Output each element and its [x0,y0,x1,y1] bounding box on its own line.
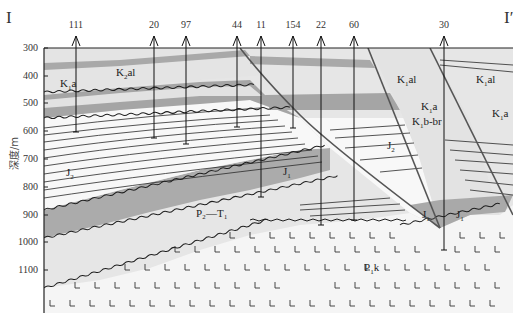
tick-1000: 1000 [4,237,38,247]
well-label-22: 22 [306,20,336,30]
tick-300: 300 [4,43,38,53]
well-label-11: 11 [246,20,276,30]
label-k1a-mid: K1a [421,101,437,115]
label-k2al: K2al [116,67,135,81]
tick-500: 500 [4,98,38,108]
label-j2-mid: J2 [387,140,395,154]
section-start-label: I [6,8,12,28]
geological-cross-section: I I′ 111 20 97 44 11 154 22 60 30 300 40… [0,0,523,325]
tick-400: 400 [4,71,38,81]
label-p1k: P1k [364,262,379,276]
tick-800: 800 [4,182,38,192]
label-j1-fault-1: J1 [422,209,430,223]
section-end-label: I′ [504,8,513,28]
k1a-mid-band [265,93,400,110]
label-j1-fault-2: J1 [456,209,464,223]
label-j2-left: J2 [66,167,74,181]
label-k1a-left: K1a [60,78,76,92]
well-label-97: 97 [171,20,201,30]
label-p2-t1: P₂—T₁ [196,208,228,219]
well-label-20: 20 [139,20,169,30]
label-j1-mid: J1 [283,166,291,180]
well-label-154: 154 [278,20,308,30]
well-label-60: 60 [339,20,369,30]
well-label-111: 111 [61,20,91,30]
well-label-30: 30 [429,20,459,30]
label-k1al-mid: K1al [397,74,416,88]
label-k1al-right: K1al [476,74,495,88]
tick-900: 900 [4,210,38,220]
tick-600: 600 [4,126,38,136]
section-canvas [0,0,523,325]
label-k1a-right: K1a [492,108,508,122]
label-k1b-br: K1b-br [412,116,442,130]
tick-1100: 1100 [4,265,38,275]
depth-axis-label: 深度/m [6,137,21,170]
